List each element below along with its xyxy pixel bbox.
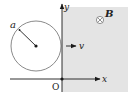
origin-dot [60, 77, 63, 80]
center-dot [34, 44, 37, 47]
origin-label: O [52, 82, 59, 92]
field-into-page-icon [96, 16, 103, 23]
field-label: B [104, 8, 113, 19]
velocity-label: v [79, 41, 84, 51]
radius-line [20, 30, 37, 46]
diagram-canvas: a x y O v B [0, 0, 135, 97]
radius-end-dot [19, 29, 21, 31]
y-axis-label: y [63, 2, 70, 12]
x-axis-label: x [102, 74, 107, 84]
radius-label: a [10, 19, 16, 30]
